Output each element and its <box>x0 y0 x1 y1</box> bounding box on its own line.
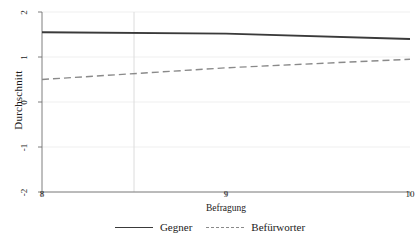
chart-legend: GegnerBefürworter <box>0 218 420 236</box>
data-series <box>42 32 410 79</box>
y-tick-label: 2 <box>19 2 30 22</box>
x-tick-label: 9 <box>211 189 241 199</box>
y-tick-label: 1 <box>19 47 30 67</box>
legend-item: Gegner <box>115 221 192 233</box>
y-tick-label: 0 <box>19 92 30 112</box>
legend-label: Gegner <box>160 221 192 233</box>
x-tick-label: 8 <box>27 189 57 199</box>
x-tick-label: 10 <box>395 189 420 199</box>
legend-line-swatch <box>206 227 244 228</box>
axis-ticks <box>38 12 410 196</box>
chart-container: Durchschnitt 210-1-2 8910 Befragung Gegn… <box>0 0 420 238</box>
y-tick-label: -1 <box>19 137 30 157</box>
x-axis-title: Befragung <box>42 203 410 213</box>
gridlines <box>42 12 410 192</box>
legend-line-swatch <box>115 227 153 228</box>
legend-label: Befürworter <box>251 221 305 233</box>
legend-item: Befürworter <box>206 221 305 233</box>
